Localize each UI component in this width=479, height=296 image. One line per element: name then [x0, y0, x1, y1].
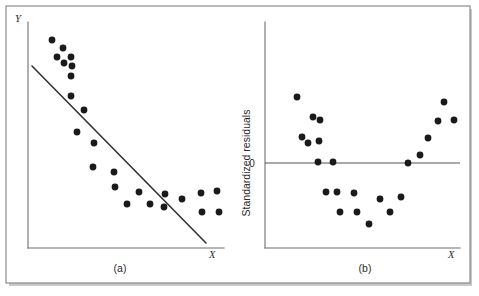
data-point-2	[54, 54, 61, 61]
data-point-18	[161, 204, 168, 211]
data-point-21	[199, 209, 206, 216]
data-point-13	[112, 184, 119, 191]
data-point-17	[162, 191, 169, 198]
data-point-17	[405, 160, 412, 167]
data-point-12	[111, 169, 118, 176]
data-point-20	[198, 190, 205, 197]
data-point-22	[214, 188, 221, 195]
data-point-19	[179, 196, 186, 203]
data-point-9	[74, 129, 81, 136]
data-point-15	[124, 201, 131, 208]
figure-frame	[6, 6, 470, 283]
data-point-7	[68, 93, 75, 100]
panel-a-caption: (a)	[114, 262, 127, 274]
data-point-9	[334, 189, 341, 196]
data-point-6	[68, 73, 75, 80]
data-point-11	[90, 164, 97, 171]
data-point-15	[387, 209, 394, 216]
panel-b-caption: (b)	[359, 262, 372, 274]
data-point-10	[351, 190, 358, 197]
data-point-16	[147, 201, 154, 208]
data-point-0	[294, 94, 301, 101]
data-point-18	[417, 152, 424, 159]
data-point-12	[354, 209, 361, 216]
data-point-4	[305, 140, 312, 147]
data-point-8	[81, 107, 88, 114]
data-point-4	[61, 60, 68, 67]
data-point-14	[377, 196, 384, 203]
data-point-20	[435, 118, 442, 125]
data-point-1	[310, 114, 317, 121]
figure-container: Y X (a) 0 Standardized residuals X (b)	[0, 0, 479, 296]
data-point-7	[330, 159, 337, 166]
data-point-8	[323, 189, 330, 196]
data-point-11	[337, 209, 344, 216]
panel-a-x-axis-label: X	[208, 249, 216, 260]
data-point-10	[91, 140, 98, 147]
data-point-3	[299, 134, 306, 141]
data-point-5	[69, 63, 76, 70]
scatter-figure: Y X (a) 0 Standardized residuals X (b)	[0, 0, 479, 296]
data-point-3	[68, 54, 75, 61]
data-point-19	[425, 135, 432, 142]
data-point-13	[366, 221, 373, 228]
data-point-21	[441, 99, 448, 106]
data-point-6	[315, 159, 322, 166]
data-point-0	[49, 37, 56, 44]
data-point-1	[60, 45, 67, 52]
data-point-23	[216, 209, 223, 216]
panel-b-x-axis-label: X	[447, 249, 455, 260]
data-point-22	[451, 117, 458, 124]
data-point-14	[136, 189, 143, 196]
data-point-2	[317, 117, 324, 124]
data-point-5	[316, 138, 323, 145]
panel-b-y-axis-label: Standardized residuals	[240, 110, 252, 217]
data-point-16	[398, 194, 405, 201]
